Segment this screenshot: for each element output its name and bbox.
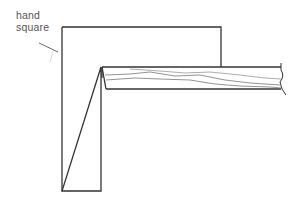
label-line-1: hand xyxy=(16,9,49,21)
leader-line xyxy=(39,43,58,52)
hand-square-outline xyxy=(62,27,221,191)
wooden-board xyxy=(102,63,286,95)
hand-square-label: hand square xyxy=(16,9,49,33)
label-line-2: square xyxy=(16,21,49,33)
